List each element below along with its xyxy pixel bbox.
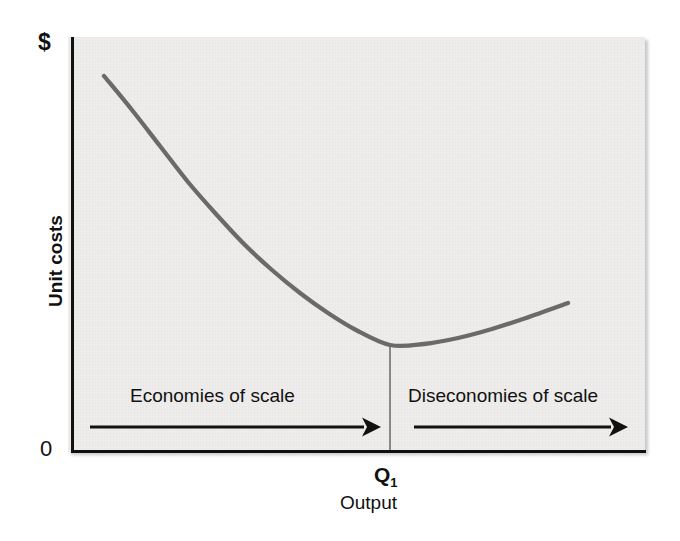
q1-subscript: 1 xyxy=(390,475,397,490)
x-axis-title: Output xyxy=(340,492,397,514)
chart-canvas: $ 0 Unit costs Economies of scale Diseco… xyxy=(0,0,680,541)
diseconomies-of-scale-label: Diseconomies of scale xyxy=(408,385,598,407)
diseconomies-arrow-icon xyxy=(414,418,628,437)
y-axis-currency-label: $ xyxy=(38,29,51,56)
economies-of-scale-label: Economies of scale xyxy=(130,385,295,407)
q1-base: Q xyxy=(374,463,390,486)
q1-tick-label: Q1 xyxy=(374,463,398,490)
chart-graphics-layer xyxy=(0,0,680,541)
economies-arrow-icon xyxy=(90,418,381,437)
origin-label: 0 xyxy=(40,436,52,462)
y-axis-title: Unit costs xyxy=(45,191,67,331)
average-cost-curve xyxy=(104,76,568,346)
